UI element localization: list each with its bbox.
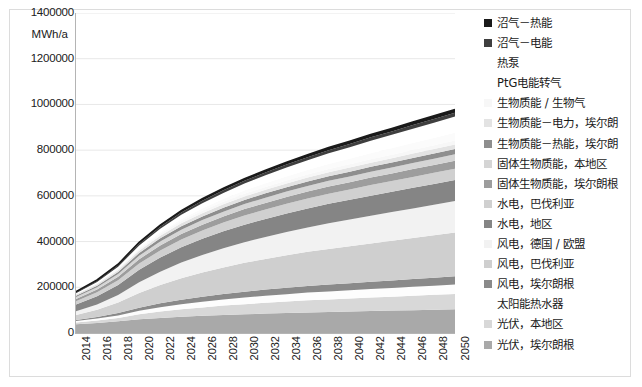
legend-item[interactable]: 生物质能－电力，埃尔朗 xyxy=(484,114,634,134)
y-axis-line xyxy=(75,13,76,334)
x-tick-label: 2014 xyxy=(81,336,92,360)
x-tick-label: 2040 xyxy=(354,336,365,360)
x-tick-label: 2024 xyxy=(186,336,197,360)
legend-item[interactable]: 生物质能 / 生物气 xyxy=(484,94,634,114)
legend-label: 太阳能热水器 xyxy=(497,295,563,313)
legend-label: 生物质能－热能，埃尔朗 xyxy=(497,135,618,153)
legend-label: 水电，地区 xyxy=(497,215,552,233)
legend-item[interactable]: 沼气－热能 xyxy=(484,14,634,34)
legend-label: 沼气－热能 xyxy=(497,14,552,32)
legend-item[interactable]: 生物质能－热能，埃尔朗 xyxy=(484,135,634,155)
x-tick-label: 2042 xyxy=(375,336,386,360)
x-tick-label: 2026 xyxy=(207,336,218,360)
legend-label: 固体生物质能，埃尔朗根 xyxy=(497,175,618,193)
y-tick-label: 0 xyxy=(68,327,74,339)
x-tick-label: 2032 xyxy=(270,336,281,360)
chart-legend: 沼气－热能沼气－电能热泵PtG电能转气生物质能 / 生物气生物质能－电力，埃尔朗… xyxy=(484,14,634,356)
legend-swatch-icon xyxy=(484,341,492,349)
legend-item[interactable]: 固体生物质能，本地区 xyxy=(484,155,634,175)
legend-swatch-icon xyxy=(484,59,492,67)
legend-label: 水电，巴伐利亚 xyxy=(497,195,574,213)
legend-swatch-icon xyxy=(484,320,492,328)
legend-swatch-icon xyxy=(484,119,492,127)
x-tick-label: 2016 xyxy=(102,336,113,360)
legend-label: 固体生物质能，本地区 xyxy=(497,155,607,173)
legend-swatch-icon xyxy=(484,19,492,27)
x-tick-label: 2046 xyxy=(417,336,428,360)
y-tick-label: 1000000 xyxy=(31,98,74,110)
x-tick-label: 2038 xyxy=(333,336,344,360)
legend-label: 光伏，本地区 xyxy=(497,315,563,333)
y-tick-label: 600000 xyxy=(37,190,74,202)
legend-item[interactable]: 风电，巴伐利亚 xyxy=(484,255,634,275)
y-tick-label: 200000 xyxy=(37,281,74,293)
legend-label: PtG电能转气 xyxy=(497,74,561,92)
y-tick-label: 1400000 xyxy=(31,7,74,19)
legend-swatch-icon xyxy=(484,39,492,47)
x-tick-label: 2022 xyxy=(165,336,176,360)
stacked-area-chart: 1400000120000010000008000006000004000002… xyxy=(0,0,642,387)
legend-swatch-icon xyxy=(484,240,492,248)
x-tick-label: 2034 xyxy=(291,336,302,360)
x-tick-label: 2048 xyxy=(438,336,449,360)
legend-item[interactable]: 风电，德国 / 欧盟 xyxy=(484,235,634,255)
legend-label: 风电，埃尔朗根 xyxy=(497,275,574,293)
y-axis-unit-label: MWh/a xyxy=(32,29,68,41)
legend-item[interactable]: 风电，埃尔朗根 xyxy=(484,275,634,295)
legend-item[interactable]: 固体生物质能，埃尔朗根 xyxy=(484,175,634,195)
plot-area xyxy=(76,13,455,333)
legend-label: 光伏，埃尔朗根 xyxy=(497,336,574,354)
legend-item[interactable]: 沼气－电能 xyxy=(484,34,634,54)
y-tick-label: 800000 xyxy=(37,144,74,156)
legend-item[interactable]: 光伏，本地区 xyxy=(484,315,634,335)
x-axis-labels: 2014201620182020202220242026202820302032… xyxy=(76,334,455,386)
plot-svg xyxy=(76,13,455,333)
y-tick-label: 1200000 xyxy=(31,53,74,65)
x-tick-label: 2020 xyxy=(144,336,155,360)
x-tick-label: 2036 xyxy=(312,336,323,360)
x-tick-label: 2050 xyxy=(460,336,471,360)
y-axis-labels: 1400000120000010000008000006000004000002… xyxy=(12,9,74,349)
legend-item[interactable]: 太阳能热水器 xyxy=(484,295,634,315)
legend-label: 风电，德国 / 欧盟 xyxy=(497,235,585,253)
legend-swatch-icon xyxy=(484,220,492,228)
legend-swatch-icon xyxy=(484,160,492,168)
legend-swatch-icon xyxy=(484,280,492,288)
legend-item[interactable]: 水电，巴伐利亚 xyxy=(484,195,634,215)
legend-label: 热泵 xyxy=(497,54,519,72)
x-tick-label: 2018 xyxy=(123,336,134,360)
legend-swatch-icon xyxy=(484,300,492,308)
legend-label: 生物质能 / 生物气 xyxy=(497,94,585,112)
legend-label: 生物质能－电力，埃尔朗 xyxy=(497,114,618,132)
legend-swatch-icon xyxy=(484,200,492,208)
x-tick-label: 2044 xyxy=(396,336,407,360)
legend-item[interactable]: 水电，地区 xyxy=(484,215,634,235)
y-tick-label: 400000 xyxy=(37,236,74,248)
x-tick-label: 2028 xyxy=(228,336,239,360)
legend-label: 沼气－电能 xyxy=(497,34,552,52)
legend-swatch-icon xyxy=(484,180,492,188)
legend-swatch-icon xyxy=(484,140,492,148)
legend-item[interactable]: PtG电能转气 xyxy=(484,74,634,94)
legend-swatch-icon xyxy=(484,99,492,107)
legend-item[interactable]: 热泵 xyxy=(484,54,634,74)
legend-swatch-icon xyxy=(484,79,492,87)
x-tick-label: 2030 xyxy=(249,336,260,360)
legend-swatch-icon xyxy=(484,260,492,268)
legend-item[interactable]: 光伏，埃尔朗根 xyxy=(484,336,634,356)
legend-label: 风电，巴伐利亚 xyxy=(497,255,574,273)
